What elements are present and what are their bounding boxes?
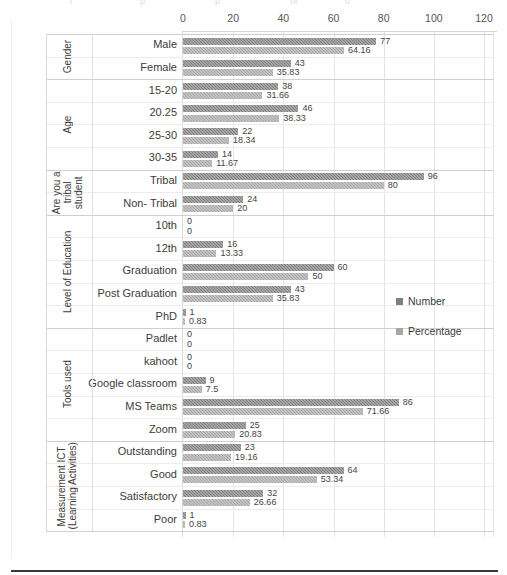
- row-separator: [46, 147, 494, 148]
- bar-value-label: 13.33: [220, 249, 243, 258]
- bar-value-label: 77: [380, 37, 390, 46]
- bar-value-label: 31.66: [266, 91, 289, 100]
- x-axis-tick-label: 80: [378, 12, 390, 24]
- legend-item[interactable]: Number: [396, 295, 462, 307]
- legend-item[interactable]: Percentage: [396, 325, 462, 337]
- bar-percentage: [183, 476, 317, 483]
- plot-bottom-border: [46, 531, 494, 532]
- plot-right-border: [493, 32, 494, 537]
- category-label: Graduation: [123, 265, 177, 276]
- bar-percentage: [183, 250, 216, 257]
- bar-value-label: 46: [302, 104, 312, 113]
- outer-left-rule: [11, 20, 12, 558]
- bar-number: [183, 264, 334, 271]
- bar-percentage: [183, 386, 202, 393]
- bar-number: [183, 128, 238, 135]
- x-axis-header: 020406080100120: [0, 10, 507, 32]
- category-label: 10th: [156, 220, 177, 231]
- bar-value-label: 26.66: [254, 498, 277, 507]
- bar-percentage: [183, 47, 344, 54]
- bar-number: [183, 467, 344, 474]
- bar-number: [183, 173, 424, 180]
- group-separator: [46, 34, 494, 35]
- bar-number: [183, 105, 298, 112]
- bar-value-label: 0: [187, 330, 192, 339]
- bar-value-label: 18.34: [233, 136, 256, 145]
- bar-number: [183, 286, 291, 293]
- bar-value-label: 86: [403, 398, 413, 407]
- x-axis-tick-label: 0: [180, 12, 186, 24]
- bar-percentage: [183, 408, 363, 415]
- group-column-divider: [92, 441, 93, 531]
- bar-value-label: 0: [187, 227, 192, 236]
- category-label: Tribal: [150, 175, 177, 186]
- row-separator: [46, 283, 494, 284]
- category-label: 30-35: [149, 152, 177, 163]
- category-label: Zoom: [149, 424, 177, 435]
- bar-value-label: 0.83: [189, 520, 207, 529]
- bar-number: [183, 422, 246, 429]
- group-separator: [46, 170, 494, 171]
- category-label: PhD: [156, 311, 177, 322]
- bar-number: [183, 444, 241, 451]
- bar-number: [183, 377, 206, 384]
- gridline: [484, 32, 485, 537]
- bar-value-label: 0: [187, 362, 192, 371]
- bar-value-label: 7.5: [206, 385, 219, 394]
- group-column-divider: [92, 170, 93, 215]
- category-label: 25-30: [149, 130, 177, 141]
- bar-percentage: [183, 92, 262, 99]
- bar-value-label: 35.83: [277, 68, 300, 77]
- x-axis-tick-label: 20: [227, 12, 239, 24]
- legend-swatch-icon: [396, 328, 403, 335]
- bar-percentage: [183, 205, 233, 212]
- bar-percentage: [183, 295, 273, 302]
- x-axis-tick-label: 100: [425, 12, 443, 24]
- top-artifact-fragment: p: [140, 0, 145, 6]
- bar-percentage: [183, 499, 250, 506]
- bar-value-label: 0: [187, 217, 192, 226]
- legend-swatch-icon: [396, 298, 403, 305]
- x-axis-tick-label: 60: [328, 12, 340, 24]
- group-label: Age: [47, 79, 87, 169]
- bar-value-label: 80: [388, 181, 398, 190]
- category-label: MS Teams: [125, 401, 177, 412]
- bar-value-label: 23: [245, 443, 255, 452]
- category-label: Female: [140, 62, 177, 73]
- category-label: Satisfactory: [120, 491, 177, 502]
- bar-number: [183, 196, 243, 203]
- grouped-horizontal-bar-chart: 020406080100120 Male7764.16Female4335.83…: [0, 10, 507, 558]
- bar-percentage: [183, 137, 229, 144]
- bar-value-label: 19.16: [235, 453, 258, 462]
- bar-percentage: [183, 454, 231, 461]
- group-label: Gender: [47, 34, 87, 79]
- group-column-divider: [92, 215, 93, 328]
- row-separator: [46, 102, 494, 103]
- category-label: Post Graduation: [98, 288, 178, 299]
- x-axis-tick-label: 120: [475, 12, 493, 24]
- category-label: Google classroom: [88, 378, 177, 389]
- category-label: Non- Tribal: [123, 198, 177, 209]
- row-separator: [46, 396, 494, 397]
- group-separator: [46, 79, 494, 80]
- group-separator: [46, 215, 494, 216]
- category-label: Poor: [154, 514, 177, 525]
- footer-rule: [11, 570, 498, 572]
- category-label: 15-20: [149, 85, 177, 96]
- bar-percentage: [183, 182, 384, 189]
- row-separator: [46, 373, 494, 374]
- group-separator: [46, 441, 494, 442]
- bar-value-label: 35.83: [277, 294, 300, 303]
- top-artifact-fragment: o: [345, 0, 350, 6]
- bar-value-label: 64.16: [348, 46, 371, 55]
- row-separator: [46, 124, 494, 125]
- gridline: [334, 32, 335, 537]
- row-separator: [46, 57, 494, 58]
- category-label: 12th: [156, 243, 177, 254]
- group-label: Level of Education: [47, 215, 87, 328]
- bar-percentage: [183, 521, 185, 528]
- bar-number: [183, 38, 376, 45]
- bar-value-label: 20.83: [239, 430, 262, 439]
- bar-percentage: [183, 318, 185, 325]
- bar-number: [183, 490, 263, 497]
